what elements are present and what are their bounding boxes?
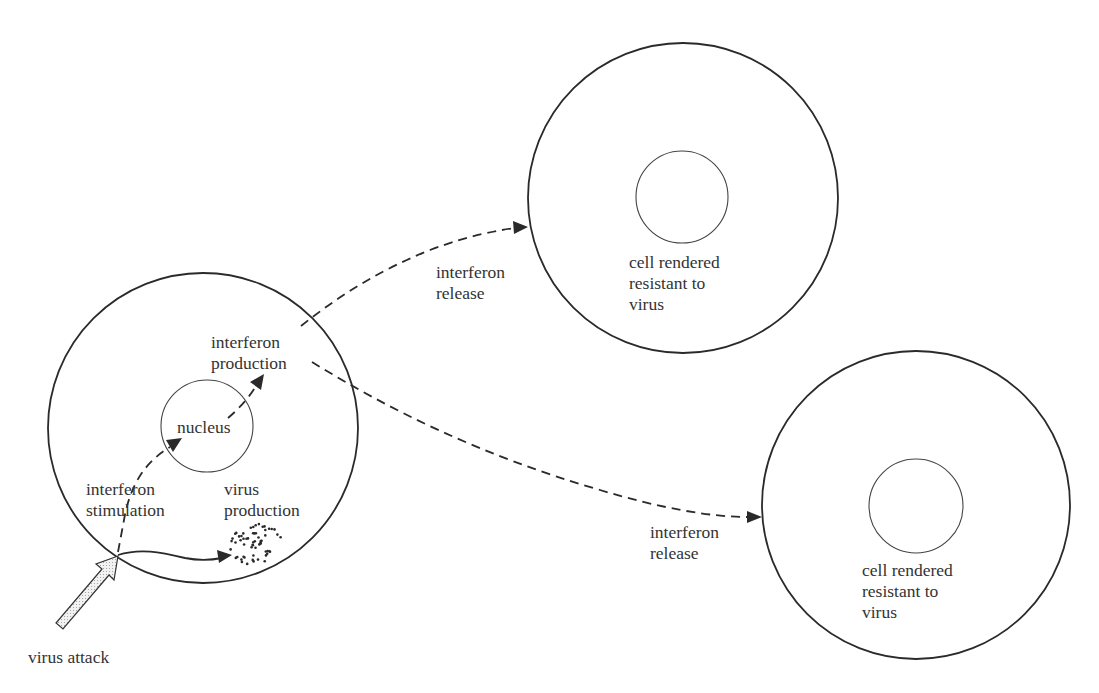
label-interferon-production: interferon production — [211, 332, 287, 373]
label-resistant-cell-top: cell rendered resistant to virus — [629, 252, 724, 314]
resistant-cell-bottom-nucleus — [869, 459, 963, 553]
arrowhead-icon — [250, 374, 264, 390]
resistant-cell-bottom-membrane — [762, 351, 1070, 659]
label-interferon-stimulation: interferon stimulation — [86, 479, 165, 520]
resistant-cell-top-membrane — [528, 43, 838, 353]
label-release-bottom: interferon release — [650, 522, 723, 563]
label-resistant-cell-bottom: cell rendered resistant to virus — [862, 560, 957, 622]
interferon-diagram: interferon production nucleus interferon… — [0, 0, 1099, 693]
production-arrow — [228, 374, 264, 418]
label-nucleus: nucleus — [177, 417, 231, 437]
label-virus-attack: virus attack — [28, 647, 109, 667]
arrowhead-icon — [166, 438, 182, 452]
label-virus-production: virus production — [224, 479, 300, 520]
virus-attack-arrow-icon — [56, 556, 118, 629]
resistant-cell-bottom — [762, 351, 1070, 659]
label-release-top: interferon release — [436, 262, 509, 303]
virus-particles — [229, 523, 282, 565]
arrowhead-icon — [217, 550, 232, 563]
resistant-cell-top — [528, 43, 838, 353]
resistant-cell-top-nucleus — [636, 151, 728, 243]
arrowhead-icon — [513, 221, 528, 234]
virus-attack-arrow — [56, 556, 118, 629]
virus-production-arrow — [118, 550, 232, 563]
release-arrow-bottom — [312, 362, 762, 523]
arrowhead-icon — [747, 511, 762, 523]
